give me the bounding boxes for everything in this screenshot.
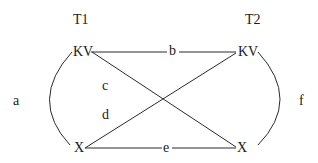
edges-layer xyxy=(0,0,318,163)
edge-label-d: d xyxy=(102,108,109,122)
column-header-t1: T1 xyxy=(73,13,89,27)
node-top-right: KV xyxy=(238,45,258,59)
column-header-t2: T2 xyxy=(245,13,261,27)
node-bottom-left: X xyxy=(74,141,84,155)
arc-right xyxy=(258,52,280,145)
edge-diag-up xyxy=(85,53,236,148)
arc-left xyxy=(49,52,72,145)
edge-label-c: c xyxy=(102,79,108,93)
diagram-canvas: T1 T2 KV KV X X a b c d e f xyxy=(0,0,318,163)
edge-label-e: e xyxy=(163,141,169,155)
edge-label-f: f xyxy=(299,94,304,108)
edge-label-b: b xyxy=(169,44,176,58)
node-bottom-right: X xyxy=(237,141,247,155)
edge-label-a: a xyxy=(13,94,19,108)
node-top-left: KV xyxy=(73,45,93,59)
